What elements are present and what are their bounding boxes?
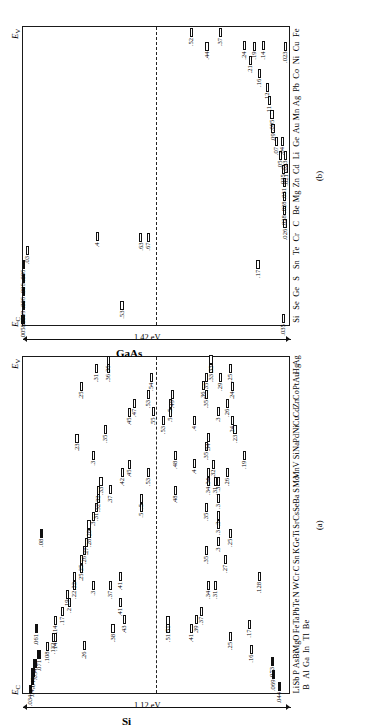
energy-level-value: .4 — [94, 242, 101, 251]
energy-level-value: .16 — [256, 79, 263, 91]
bandgap-label-gaas: 1.42 eV — [134, 333, 161, 342]
energy-level-value: .53 — [160, 426, 167, 438]
energy-level-value: .17 — [255, 270, 262, 282]
energy-level-value: .028 — [281, 215, 288, 231]
energy-level-value: .3 — [215, 530, 222, 539]
energy-level-value: .34 — [205, 443, 212, 455]
energy-level-mark — [95, 365, 98, 374]
energy-level-value: .35 — [102, 435, 109, 447]
energy-level-value: .22 — [71, 582, 78, 594]
energy-level-mark — [111, 624, 114, 633]
energy-level-value: .67 — [145, 242, 152, 254]
energy-level-value: .3 — [90, 461, 97, 470]
energy-level-value: .44 — [204, 51, 211, 63]
energy-level-mark — [266, 83, 269, 92]
bandgap-arrow-line — [23, 339, 291, 340]
material-label-gaas: GaAs — [116, 347, 142, 359]
energy-level-mark — [104, 425, 107, 434]
energy-level-mark — [66, 590, 69, 599]
energy-level-mark-acceptor — [229, 633, 232, 642]
energy-level-value: .0059 — [20, 311, 27, 330]
energy-level-value: .26 — [224, 409, 231, 421]
energy-level-mark — [162, 417, 165, 426]
energy-level-value: .21 — [247, 65, 254, 77]
energy-level-mark — [229, 364, 232, 373]
energy-level-mark — [171, 390, 174, 399]
energy-level-value-acceptor: .17 — [246, 630, 253, 642]
energy-level-mark — [207, 433, 210, 442]
energy-level-value-acceptor: .25 — [227, 642, 234, 654]
energy-level-mark — [139, 233, 142, 242]
energy-level-value: .26 — [224, 478, 231, 490]
energy-level-mark — [229, 529, 232, 538]
energy-level-mark — [205, 546, 208, 555]
energy-level-mark — [243, 451, 246, 460]
energy-level-value: .54 — [148, 383, 155, 395]
ec-label-a: EC — [10, 685, 21, 695]
energy-level-value-acceptor: .073 — [269, 667, 276, 683]
energy-level-value: .12 — [264, 92, 271, 104]
element-label-bottom-be: Be — [303, 615, 311, 635]
energy-level-value: .4 — [191, 469, 198, 478]
energy-level-value: .028 — [281, 201, 288, 217]
energy-level-value: .17 — [59, 617, 66, 629]
panel-si: EC EV .034.043.046.054.071.108.26.132.14… — [0, 340, 390, 716]
energy-level-value: .3 — [215, 417, 222, 426]
energy-level-value: .3 — [215, 504, 222, 513]
energy-level-value: .19 — [64, 599, 71, 611]
energy-level-value: .28 — [86, 530, 93, 542]
energy-level-value: .19 — [241, 461, 248, 473]
energy-level-value: .3 — [215, 547, 222, 556]
energy-level-value: .43 — [121, 625, 128, 637]
energy-level-mark — [282, 314, 285, 323]
energy-level-value: .5 — [138, 513, 145, 522]
energy-level-mark — [133, 399, 136, 408]
energy-level-mark — [109, 485, 112, 494]
energy-level-mark — [219, 28, 222, 37]
energy-level-mark — [207, 581, 210, 590]
energy-level-mark — [119, 572, 122, 581]
material-label-si: Si — [122, 715, 131, 727]
energy-level-value-acceptor: .16 — [248, 655, 255, 667]
energy-level-value-acceptor: .044 — [276, 692, 283, 708]
bandgap-label-si: 1.12 eV — [134, 701, 161, 710]
energy-level-value: .38 — [110, 634, 117, 646]
energy-level-value: .49 — [169, 400, 176, 412]
energy-level-mark — [147, 468, 150, 477]
energy-level-mark — [150, 373, 153, 382]
energy-level-value: .3 — [215, 521, 222, 530]
energy-level-mark-acceptor — [271, 658, 274, 667]
energy-level-value: .021 — [283, 174, 290, 190]
energy-level-mark — [253, 42, 256, 51]
energy-level-mark — [37, 651, 40, 660]
bandgap-arrow-line — [23, 707, 291, 708]
energy-level-value: .023 — [282, 51, 289, 67]
energy-level-mark — [120, 301, 123, 310]
energy-level-mark — [107, 356, 110, 365]
energy-level-value: .31 — [212, 591, 219, 603]
energy-level-mark — [219, 373, 222, 382]
midgap-dashed-line — [156, 27, 157, 325]
figure-caption-b: (b) — [314, 171, 324, 181]
energy-level-value: .31 — [93, 374, 100, 386]
energy-level-mark — [209, 355, 212, 364]
energy-level-mark — [262, 41, 265, 50]
energy-level-mark — [284, 42, 287, 51]
ev-label-a: EV — [10, 359, 21, 369]
energy-level-mark — [26, 247, 29, 256]
energy-level-mark — [212, 460, 215, 469]
energy-level-value: .52 — [188, 38, 195, 50]
energy-level-mark — [243, 41, 246, 50]
energy-level-value: .006 — [20, 283, 27, 299]
energy-level-mark — [109, 581, 112, 590]
energy-level-value: .33 — [208, 365, 215, 377]
energy-level-value: .35 — [203, 556, 210, 568]
energy-level-value: .095 — [269, 120, 276, 136]
energy-level-value: .53 — [145, 400, 152, 412]
energy-level-value: .026 — [282, 229, 289, 245]
energy-level-value: .3 — [90, 591, 97, 600]
energy-level-value: .41 — [117, 582, 124, 594]
energy-level-value: .08 — [38, 539, 45, 551]
energy-level-mark — [92, 451, 95, 460]
